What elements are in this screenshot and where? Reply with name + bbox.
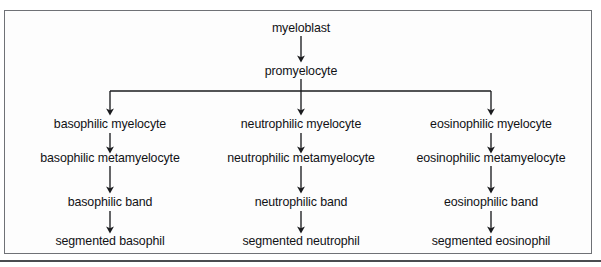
node-basophilic-metamyelocyte: basophilic metamyelocyte bbox=[40, 151, 179, 165]
node-myeloblast: myeloblast bbox=[272, 21, 330, 35]
baseline-rule bbox=[0, 260, 601, 262]
connector-layer bbox=[0, 0, 601, 267]
node-segmented-neutrophil: segmented neutrophil bbox=[242, 234, 359, 248]
node-neutrophilic-myelocyte: neutrophilic myelocyte bbox=[241, 117, 361, 131]
node-promyelocyte: promyelocyte bbox=[265, 64, 338, 78]
node-basophilic-band: basophilic band bbox=[68, 195, 153, 209]
node-basophilic-myelocyte: basophilic myelocyte bbox=[54, 117, 166, 131]
node-eosinophilic-band: eosinophilic band bbox=[444, 195, 538, 209]
node-neutrophilic-band: neutrophilic band bbox=[255, 195, 348, 209]
node-eosinophilic-metamyelocyte: eosinophilic metamyelocyte bbox=[417, 151, 566, 165]
node-segmented-eosinophil: segmented eosinophil bbox=[432, 234, 551, 248]
flowchart-figure: myeloblast promyelocyte basophilic myelo… bbox=[0, 0, 601, 267]
node-neutrophilic-metamyelocyte: neutrophilic metamyelocyte bbox=[227, 151, 375, 165]
node-segmented-basophil: segmented basophil bbox=[55, 234, 164, 248]
node-eosinophilic-myelocyte: eosinophilic myelocyte bbox=[430, 117, 552, 131]
